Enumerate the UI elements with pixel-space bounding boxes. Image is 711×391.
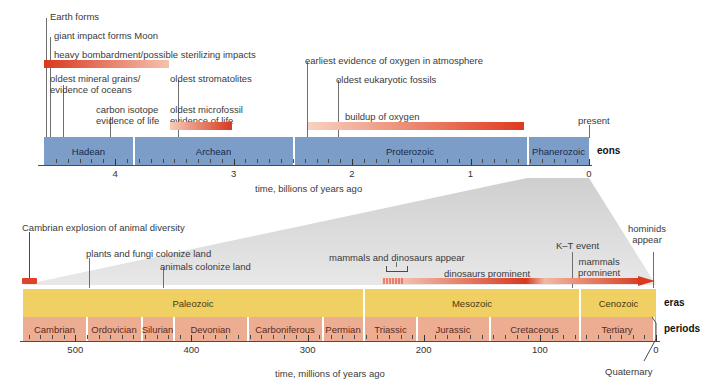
axis-major-tick [352, 159, 353, 165]
event-label-plants-fungi: plants and fungi colonize land [86, 248, 211, 259]
event-block-cambrian-explosion [22, 278, 37, 284]
period-segment-jurassic[interactable]: Jurassic [417, 317, 489, 341]
axis-major-tick [424, 335, 425, 341]
axis-minor-tick [269, 159, 270, 163]
axis-minor-tick [186, 159, 187, 163]
axis-minor-tick [530, 159, 531, 163]
period-label-cambrian: Cambrian [34, 324, 75, 335]
axis-tick-label: 3 [214, 168, 254, 179]
bottom-axis-line [20, 341, 660, 342]
event-label-carbon-isotope: carbon isotope evidence of life [96, 104, 159, 126]
axis-minor-tick [238, 335, 239, 339]
period-segment-cretaceous[interactable]: Cretaceous [490, 317, 579, 341]
event-bar-heavy-bombardment [44, 60, 169, 68]
axis-minor-tick [577, 159, 578, 163]
axis-minor-tick [563, 335, 564, 339]
axis-minor-tick [401, 335, 402, 339]
axis-minor-tick [317, 159, 318, 163]
era-label-cenozoic: Cenozoic [599, 298, 639, 309]
axis-minor-tick [122, 335, 123, 339]
axis-minor-tick [376, 159, 377, 163]
axis-minor-tick [331, 335, 332, 339]
axis-minor-tick [610, 335, 611, 339]
axis-minor-tick [354, 335, 355, 339]
period-label-tertiary: Tertiary [601, 324, 632, 335]
axis-minor-tick [633, 335, 634, 339]
axis-major-tick [308, 335, 309, 341]
axis-minor-tick [305, 159, 306, 163]
axis-minor-tick [250, 335, 251, 339]
axis-minor-tick [145, 335, 146, 339]
axis-minor-tick [127, 159, 128, 163]
event-label-oldest-mineral-grains: oldest mineral grains/ evidence of ocean… [50, 73, 140, 95]
axis-minor-tick [110, 335, 111, 339]
geologic-timeline-figure: Earth forms giant impact forms Moon heav… [0, 0, 711, 391]
axis-minor-tick [565, 159, 566, 163]
axis-minor-tick [281, 159, 282, 163]
axis-major-tick [234, 159, 235, 165]
axis-minor-tick [542, 159, 543, 163]
period-label-permian: Permian [325, 324, 360, 335]
period-segment-devonian[interactable]: Devonian [174, 317, 247, 341]
event-label-mammals-prominent: mammals prominent [578, 256, 620, 278]
event-label-oldest-eukaryotic: oldest eukaryotic fossils [336, 74, 436, 85]
axis-tick-label: 2 [332, 168, 372, 179]
axis-minor-tick [99, 335, 100, 339]
axis-minor-tick [447, 335, 448, 339]
axis-minor-tick [133, 335, 134, 339]
axis-tick-label: 200 [404, 344, 444, 355]
axis-major-tick [191, 335, 192, 341]
eon-segment-hadean[interactable]: Hadean [44, 137, 133, 165]
period-segment-triassic[interactable]: Triassic [365, 317, 416, 341]
axis-minor-tick [273, 335, 274, 339]
event-label-present: present [578, 115, 610, 126]
era-label-paleozoic: Paleozoic [172, 298, 213, 309]
eon-label-hadean: Hadean [72, 146, 105, 157]
axis-minor-tick [319, 335, 320, 339]
axis-major-tick [471, 159, 472, 165]
event-label-buildup-oxygen: buildup of oxygen [345, 111, 419, 122]
era-bar: Paleozoic Mesozoic Cenozoic [23, 289, 656, 317]
axis-minor-tick [388, 159, 389, 163]
event-label-earth-forms: Earth forms [50, 11, 99, 22]
axis-minor-tick [377, 335, 378, 339]
axis-minor-tick [506, 159, 507, 163]
axis-minor-tick [482, 159, 483, 163]
top-axis-title: time, billions of years ago [255, 183, 362, 194]
period-bar: Cambrian Ordovician Silurian Devonian Ca… [23, 317, 656, 341]
period-label-silurian: Silurian [142, 324, 174, 335]
axis-minor-tick [447, 159, 448, 163]
axis-major-tick [589, 159, 590, 165]
period-segment-cambrian[interactable]: Cambrian [23, 317, 86, 341]
axis-minor-tick [459, 159, 460, 163]
row-label-periods: periods [664, 323, 700, 334]
era-segment-cenozoic[interactable]: Cenozoic [581, 289, 656, 317]
axis-minor-tick [87, 335, 88, 339]
leader-present [589, 125, 590, 138]
axis-tick-label: 0 [636, 344, 676, 355]
axis-major-tick [540, 335, 541, 341]
period-label-carboniferous: Carboniferous [255, 324, 315, 335]
axis-minor-tick [139, 159, 140, 163]
axis-minor-tick [517, 335, 518, 339]
eon-label-archean: Archean [196, 146, 231, 157]
axis-minor-tick [198, 159, 199, 163]
axis-minor-tick [257, 159, 258, 163]
axis-minor-tick [528, 335, 529, 339]
leader-bracket-stem [396, 262, 397, 267]
eon-segment-phanerozoic[interactable]: Phanerozoic [528, 137, 589, 165]
axis-minor-tick [575, 335, 576, 339]
axis-minor-tick [64, 335, 65, 339]
axis-minor-tick [423, 159, 424, 163]
event-label-animals-colonize: animals colonize land [160, 261, 251, 272]
axis-minor-tick [168, 335, 169, 339]
eon-label-proterozoic: Proterozoic [386, 146, 434, 157]
event-label-earliest-oxygen: earliest evidence of oxygen in atmospher… [305, 55, 483, 66]
axis-minor-tick [554, 159, 555, 163]
event-bar-buildup-oxygen [308, 122, 524, 130]
period-label-devonian: Devonian [190, 324, 230, 335]
era-segment-paleozoic[interactable]: Paleozoic [23, 289, 363, 317]
leader-cambrian-explosion [29, 232, 30, 278]
era-segment-mesozoic[interactable]: Mesozoic [365, 289, 579, 317]
axis-minor-tick [163, 159, 164, 163]
